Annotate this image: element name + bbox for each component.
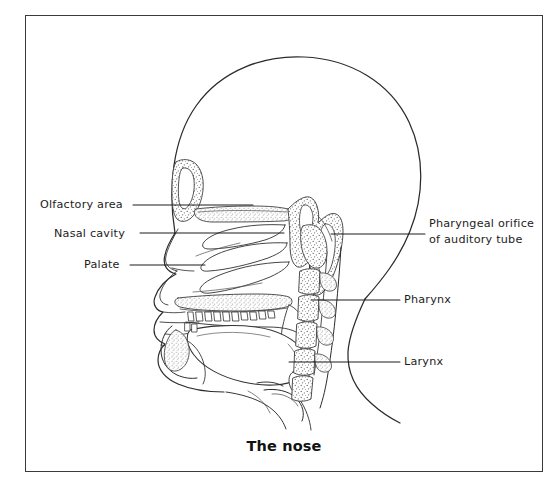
vertebra-c2 bbox=[298, 295, 319, 322]
label-pharyngeal-orifice-line1: Pharyngeal orifice bbox=[429, 217, 534, 230]
vertebra-c1 bbox=[299, 269, 320, 295]
upper-teeth bbox=[188, 311, 275, 321]
trachea-posterior bbox=[300, 400, 311, 430]
figure-caption: The nose bbox=[25, 438, 543, 454]
label-nasal-cavity: Nasal cavity bbox=[54, 227, 125, 240]
mandible-bone-stipple bbox=[164, 330, 189, 371]
neck-back-outline bbox=[348, 299, 400, 423]
vertebra-c3 bbox=[296, 322, 317, 349]
olfactory-roof-bone bbox=[194, 206, 293, 222]
trachea-anterior bbox=[226, 392, 286, 429]
label-pharyngeal-orifice-line2: of auditory tube bbox=[429, 233, 523, 246]
label-pharyngeal-orifice-of-auditory-tube: Pharyngeal orifice of auditory tube bbox=[429, 216, 547, 248]
cervical-vertebrae bbox=[292, 269, 320, 402]
label-palate: Palate bbox=[84, 258, 120, 271]
upper-lip-line bbox=[163, 312, 185, 313]
larynx-detail-curve bbox=[248, 391, 270, 413]
label-larynx: Larynx bbox=[404, 355, 443, 368]
figure-root: Olfactory area Nasal cavity Palate Phary… bbox=[0, 0, 559, 493]
label-pharynx: Pharynx bbox=[404, 293, 451, 306]
hard-palate-bone bbox=[175, 294, 292, 311]
label-olfactory-area: Olfactory area bbox=[40, 198, 123, 211]
nose-alar-line bbox=[160, 271, 177, 305]
vertebra-c5 bbox=[292, 376, 313, 402]
